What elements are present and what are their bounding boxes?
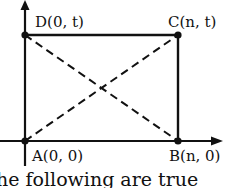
label-d: D(0, t) (35, 13, 84, 31)
x-axis-arrow-icon (211, 137, 223, 146)
label-a: A(0, 0) (31, 147, 83, 165)
point-a (21, 137, 28, 144)
rectangle-diagram: D(0, t) C(n, t) A(0, 0) B(n, 0) he follo… (0, 0, 231, 188)
point-b (174, 137, 181, 144)
caption-text: he following are true (0, 168, 198, 188)
label-c: C(n, t) (168, 13, 216, 31)
y-axis-arrow-icon (21, 0, 30, 10)
point-d (21, 31, 28, 38)
point-c (174, 31, 181, 38)
label-b: B(n, 0) (169, 147, 220, 165)
